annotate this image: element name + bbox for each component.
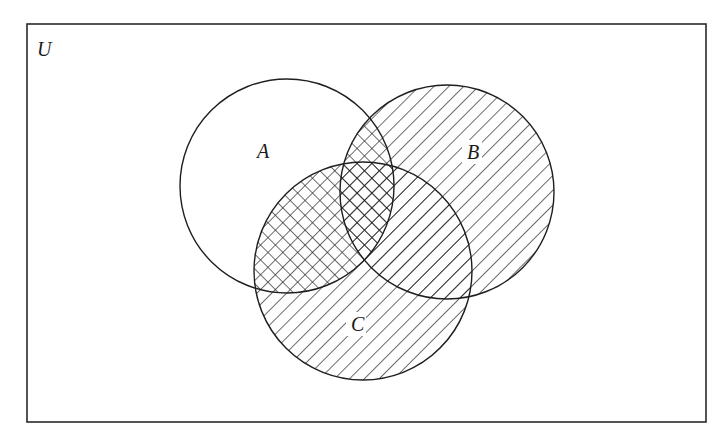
universe-label: U <box>37 38 53 60</box>
venn-diagram: U A B C <box>0 0 721 444</box>
set-a-label: A <box>255 140 270 162</box>
set-c-label: C <box>351 313 365 335</box>
set-b-label: B <box>467 141 479 163</box>
